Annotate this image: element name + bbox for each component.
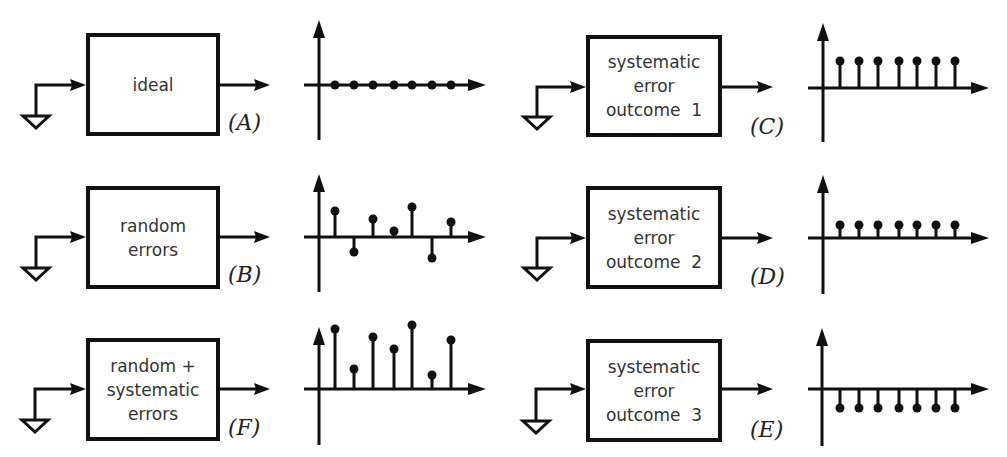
stem-point <box>855 404 864 413</box>
stem-point <box>447 81 456 90</box>
stem-point <box>913 221 922 230</box>
input-arrow-icon <box>70 79 86 91</box>
block-text: ideal <box>132 73 173 97</box>
stem-points-e <box>836 389 960 413</box>
input-arrow-icon <box>570 232 586 244</box>
stem-point <box>932 221 941 230</box>
stem-points-b <box>331 203 456 263</box>
ground-icon <box>22 389 80 432</box>
stem-point <box>390 227 399 236</box>
stem-point <box>408 203 417 212</box>
panel-label-a: (A) <box>228 110 261 135</box>
stem-points-c <box>836 57 960 89</box>
stem-point <box>836 221 845 230</box>
stem-points-d <box>836 221 960 239</box>
stem-point <box>331 325 340 334</box>
stem-point <box>932 404 941 413</box>
panel-label-e: (E) <box>750 417 783 442</box>
block-systematic-error-3: systematic error outcome 3 <box>586 339 722 442</box>
block-text-line-3: errors <box>128 402 178 426</box>
block-systematic-error-2: systematic error outcome 2 <box>586 186 722 289</box>
stem-point <box>913 404 922 413</box>
stem-point <box>932 57 941 66</box>
block-text-line-1: random + <box>110 354 196 378</box>
block-systematic-error-1: systematic error outcome 1 <box>586 35 722 137</box>
stem-point <box>874 404 883 413</box>
panel-a: ideal (A) <box>0 0 500 152</box>
output-arrow-icon <box>721 81 773 93</box>
block-text-line-3: outcome 3 <box>606 403 702 427</box>
stem-point <box>447 218 456 227</box>
output-arrow-icon <box>721 232 773 244</box>
block-text-line-1: systematic <box>608 355 701 379</box>
stem-plot-a <box>304 20 486 140</box>
panel-label-c: (C) <box>750 114 784 139</box>
stem-point <box>331 207 340 216</box>
stem-point <box>855 57 864 66</box>
input-arrow-icon <box>570 81 586 93</box>
block-text-line-1: systematic <box>608 50 701 74</box>
input-arrow-icon <box>70 231 86 243</box>
stem-point <box>369 333 378 342</box>
input-arrow-icon <box>570 383 586 395</box>
block-ideal: ideal <box>86 33 220 136</box>
ground-icon <box>524 238 580 280</box>
stem-point <box>951 221 960 230</box>
panel-f: random + systematic errors (F) <box>0 303 500 455</box>
panel-b: random errors (B) <box>0 152 500 304</box>
panel-label-d: (D) <box>750 264 785 289</box>
output-arrow-icon <box>219 383 270 395</box>
block-text-line-1: systematic <box>608 202 701 226</box>
stem-point <box>428 81 437 90</box>
stem-point <box>428 371 437 380</box>
stem-point <box>836 404 845 413</box>
stem-point <box>895 404 904 413</box>
block-random-systematic-errors: random + systematic errors <box>86 338 220 441</box>
block-text-line-2: error <box>633 226 674 250</box>
stem-point <box>855 221 864 230</box>
stem-point <box>408 321 417 330</box>
stem-point <box>913 57 922 66</box>
stem-point <box>951 404 960 413</box>
stem-point <box>874 221 883 230</box>
stem-point <box>951 57 960 66</box>
stem-point <box>331 81 340 90</box>
stem-point <box>350 81 359 90</box>
input-arrow-icon <box>70 383 86 395</box>
panel-e: systematic error outcome 3 (E) <box>500 303 1007 455</box>
stem-point <box>350 365 359 374</box>
ground-icon <box>23 85 80 128</box>
stem-points-f <box>331 321 456 390</box>
stem-point <box>369 215 378 224</box>
stem-point <box>895 221 904 230</box>
stem-point <box>390 81 399 90</box>
stem-plot-e <box>808 328 989 446</box>
stem-point <box>874 57 883 66</box>
block-text-line-2: systematic <box>107 378 200 402</box>
block-text-line-2: errors <box>128 238 178 262</box>
stem-point <box>390 345 399 354</box>
stem-point <box>895 57 904 66</box>
ground-icon <box>23 237 80 280</box>
panel-d: systematic error outcome 2 (D) <box>500 152 1007 304</box>
ground-icon <box>523 389 580 433</box>
panel-c: systematic error outcome 1 (C) <box>500 0 1007 152</box>
block-text-line-3: outcome 2 <box>606 250 702 274</box>
stem-point <box>447 336 456 345</box>
panel-label-f: (F) <box>228 415 260 440</box>
block-text-line-1: random <box>120 214 186 238</box>
block-text-line-3: outcome 1 <box>606 98 702 122</box>
block-text-line-2: error <box>633 74 674 98</box>
output-arrow-icon <box>219 231 270 243</box>
ground-icon <box>524 87 580 129</box>
stem-point <box>836 57 845 66</box>
stem-point <box>428 254 437 263</box>
stem-point <box>369 81 378 90</box>
block-random-errors: random errors <box>86 186 220 289</box>
stem-point <box>350 248 359 257</box>
output-arrow-icon <box>219 79 270 91</box>
panel-label-b: (B) <box>228 262 261 287</box>
output-arrow-icon <box>721 383 773 395</box>
block-text-line-2: error <box>633 379 674 403</box>
stem-point <box>408 81 417 90</box>
